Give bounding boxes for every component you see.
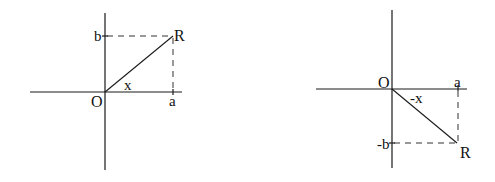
label-angle-x: x	[124, 77, 132, 93]
vector-or	[392, 89, 457, 143]
label-b: b	[94, 28, 102, 44]
vector-or	[105, 36, 173, 92]
label-angle-neg-x: -x	[410, 90, 423, 106]
label-neg-b: -b	[377, 136, 390, 152]
diagram-first-quadrant: b R x O a	[30, 13, 185, 170]
diagram-canvas: b R x O a O a -x -b R	[0, 0, 495, 182]
label-a: a	[169, 93, 176, 109]
label-o: O	[378, 74, 390, 91]
label-r: R	[174, 27, 185, 44]
label-o: O	[91, 93, 103, 110]
label-a: a	[454, 74, 461, 90]
diagram-fourth-quadrant: O a -x -b R	[316, 10, 471, 168]
label-r: R	[460, 144, 471, 161]
